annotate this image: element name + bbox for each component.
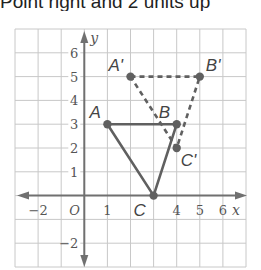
point-label-aprime: A' [108, 56, 124, 75]
x-axis-right-arrow-icon [235, 192, 247, 200]
y-axis-down-arrow-icon [80, 255, 88, 267]
y-tick-label: 2 [70, 141, 78, 156]
point-label-c: C [134, 201, 147, 220]
x-axis-label: x [232, 202, 240, 218]
y-tick-label: −2 [59, 236, 78, 251]
origin-label: O [69, 203, 80, 218]
x-tick-label: 6 [219, 203, 227, 218]
point-label-a: A [88, 103, 100, 122]
x-tick-label: −2 [29, 203, 48, 218]
x-axis-left-arrow-icon [17, 192, 29, 200]
vertex-point-c [149, 191, 157, 199]
vertex-point-aprime [126, 72, 134, 80]
y-tick-label: 4 [70, 93, 78, 108]
y-tick-label: 6 [70, 46, 78, 61]
y-tick-label: 3 [70, 117, 78, 132]
vertex-point-cprime [173, 144, 181, 152]
x-tick-label: 5 [196, 203, 204, 218]
y-axis-up-arrow-icon [80, 31, 88, 43]
x-tick-label: 4 [173, 203, 181, 218]
labels: yxO−21456654321−2ABCA'B'C' [29, 30, 240, 251]
vertex-point-bprime [196, 72, 204, 80]
vertex-point-a [103, 120, 111, 128]
x-tick-label: 1 [103, 203, 111, 218]
y-tick-label: 5 [70, 70, 78, 85]
coordinate-plane: yxO−21456654321−2ABCA'B'C' [0, 0, 261, 270]
triangle-abc [107, 124, 176, 195]
y-tick-label: 1 [70, 165, 78, 180]
vertex-point-b [173, 120, 181, 128]
point-label-cprime: C' [181, 151, 197, 170]
point-label-b: B [159, 103, 170, 122]
y-axis-label: y [89, 30, 99, 46]
point-label-bprime: B' [206, 56, 221, 75]
